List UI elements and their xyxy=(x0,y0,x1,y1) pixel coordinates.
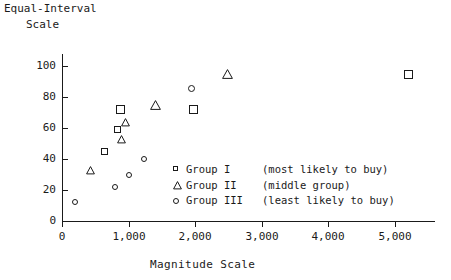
data-point-group-ii xyxy=(121,118,130,127)
x-tick-label-1000: 1,000 xyxy=(101,230,157,243)
y-tick-80 xyxy=(62,97,68,98)
x-tick-4000 xyxy=(328,222,329,227)
data-point-group-i xyxy=(116,105,125,114)
x-tick-2000 xyxy=(195,222,196,227)
legend-series-description: (most likely to buy) xyxy=(262,162,388,178)
x-tick-0 xyxy=(62,222,63,227)
chart-legend: Group I(most likely to buy)Group II(midd… xyxy=(172,162,395,209)
y-tick-40 xyxy=(62,159,68,160)
data-point-group-ii xyxy=(222,69,233,79)
legend-series-name: Group II xyxy=(186,178,262,194)
data-point-group-iii xyxy=(72,199,78,205)
triangle-marker-icon xyxy=(173,181,182,190)
x-axis-line xyxy=(62,221,435,222)
y-tick-label-100: 100 xyxy=(22,59,56,72)
data-point-group-ii xyxy=(150,100,161,110)
y-tick-label-40: 40 xyxy=(22,152,56,165)
legend-circle-icon xyxy=(172,194,186,208)
legend-series-name: Group III xyxy=(186,193,262,209)
x-tick-label-3000: 3,000 xyxy=(234,230,290,243)
legend-series-name: Group I xyxy=(186,162,262,178)
data-point-group-i xyxy=(404,70,413,79)
x-tick-5000 xyxy=(395,222,396,227)
data-point-group-ii xyxy=(86,166,95,175)
legend-row: Group I(most likely to buy) xyxy=(172,162,395,178)
data-point-group-iii xyxy=(112,184,118,190)
y-tick-label-20: 20 xyxy=(22,183,56,196)
data-point-group-i xyxy=(114,126,121,133)
y-tick-20 xyxy=(62,190,68,191)
y-axis-title-line1: Equal-Interval xyxy=(4,2,97,15)
data-point-group-iii xyxy=(141,156,147,162)
data-point-group-i xyxy=(101,148,108,155)
x-tick-label-0: 0 xyxy=(34,230,90,243)
legend-triangle-icon xyxy=(172,178,186,192)
x-tick-3000 xyxy=(262,222,263,227)
y-tick-label-80: 80 xyxy=(22,90,56,103)
legend-series-description: (middle group) xyxy=(262,178,351,194)
x-tick-1000 xyxy=(129,222,130,227)
y-tick-100 xyxy=(62,66,68,67)
y-axis-line xyxy=(62,54,63,222)
circle-marker-icon xyxy=(173,198,179,204)
y-tick-label-60: 60 xyxy=(22,121,56,134)
data-point-group-iii xyxy=(188,85,195,92)
data-point-group-iii xyxy=(126,172,132,178)
data-point-group-i xyxy=(189,105,198,114)
x-tick-label-4000: 4,000 xyxy=(300,230,356,243)
legend-row: Group III(least likely to buy) xyxy=(172,193,395,209)
x-tick-label-5000: 5,000 xyxy=(367,230,423,243)
x-axis-title: Magnitude Scale xyxy=(150,258,255,271)
legend-series-description: (least likely to buy) xyxy=(262,193,395,209)
x-tick-label-2000: 2,000 xyxy=(167,230,223,243)
y-tick-label-0: 0 xyxy=(22,214,56,227)
legend-square-icon xyxy=(172,163,186,177)
square-marker-icon xyxy=(173,166,178,171)
y-tick-60 xyxy=(62,128,68,129)
legend-row: Group II(middle group) xyxy=(172,178,395,194)
scatter-chart: Equal-Interval Scale 020406080100 01,000… xyxy=(0,0,451,280)
data-point-group-ii xyxy=(117,135,126,144)
y-axis-title-line2: Scale xyxy=(26,18,59,31)
